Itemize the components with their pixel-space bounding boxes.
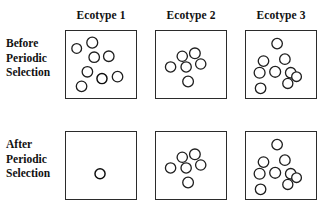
cell-circle [87, 37, 98, 48]
column-header-label: Ecotype 1 [76, 9, 125, 21]
cell-circle [272, 139, 283, 149]
cell-circle [283, 78, 293, 88]
panel-after-ecotype-1 [65, 131, 137, 200]
panel-before-ecotype-3 [245, 30, 317, 99]
cell-circle [258, 157, 269, 167]
cell-circle [112, 71, 123, 81]
cell-circle [280, 54, 291, 64]
mutant-cell-icon [97, 74, 107, 84]
cell-circle [76, 81, 87, 91]
cell-circle [196, 59, 206, 69]
row-label-line: Selection [6, 166, 50, 181]
cell-circle [190, 149, 201, 160]
cell-circle [292, 72, 302, 82]
row-label-line: Periodic [6, 152, 50, 167]
cell-circle [292, 173, 302, 183]
cell-circle [255, 83, 266, 93]
panel-before-ecotype-2 [155, 30, 227, 99]
cell-circle [258, 56, 269, 66]
cell-circle [270, 66, 281, 77]
cell-circle [72, 44, 82, 54]
cell-circle [181, 163, 191, 173]
cell-circle [82, 67, 93, 77]
panel-after-ecotype-2 [155, 131, 227, 200]
cell-circle [255, 184, 266, 194]
cell-circle [104, 51, 115, 61]
cell-circle [254, 168, 265, 179]
row-label-line: Periodic [6, 51, 50, 66]
cell-circle [183, 76, 194, 87]
row-label-before: Before Periodic Selection [6, 36, 50, 80]
mutant-cell-icon [95, 169, 105, 179]
column-header-ecotype-1: Ecotype 1 [65, 9, 137, 22]
cell-circle [272, 38, 283, 48]
cell-circle [183, 177, 194, 188]
row-label-line: Before [6, 36, 50, 51]
cell-circle [196, 160, 206, 170]
cell-circle [89, 52, 100, 62]
column-header-ecotype-3: Ecotype 3 [245, 9, 317, 22]
periodic-selection-figure: Ecotype 1 Ecotype 2 Ecotype 3 Before Per… [0, 0, 324, 214]
panel-before-ecotype-1 [65, 30, 137, 99]
cell-circle [165, 163, 175, 173]
row-label-line: After [6, 137, 50, 152]
cell-circle [177, 51, 187, 61]
cell-circle [254, 67, 265, 78]
cell-circle [177, 152, 187, 162]
row-label-line: Selection [6, 65, 50, 80]
column-header-ecotype-2: Ecotype 2 [155, 9, 227, 22]
cell-circle [280, 155, 291, 165]
cell-circle [270, 167, 281, 178]
cell-circle [190, 48, 201, 59]
column-header-label: Ecotype 2 [166, 9, 215, 21]
panel-after-ecotype-3 [245, 131, 317, 200]
cell-circle [181, 62, 191, 72]
cell-circle [165, 62, 175, 72]
cell-circle [283, 179, 293, 189]
row-label-after: After Periodic Selection [6, 137, 50, 181]
column-header-label: Ecotype 3 [256, 9, 305, 21]
